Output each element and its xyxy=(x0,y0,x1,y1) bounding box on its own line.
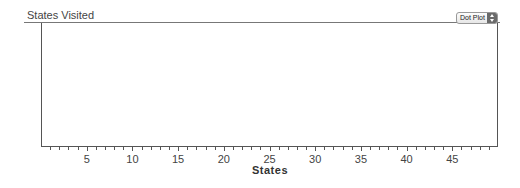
chart-title: States Visited xyxy=(27,9,94,21)
minor-tick xyxy=(251,147,252,150)
minor-tick xyxy=(123,147,124,150)
minor-tick xyxy=(196,147,197,150)
minor-tick xyxy=(96,147,97,150)
minor-tick xyxy=(480,147,481,150)
minor-tick xyxy=(50,147,51,150)
minor-tick xyxy=(187,147,188,150)
minor-tick xyxy=(416,147,417,150)
major-tick xyxy=(407,147,408,151)
minor-tick xyxy=(388,147,389,150)
minor-tick xyxy=(379,147,380,150)
minor-tick xyxy=(242,147,243,150)
minor-tick xyxy=(142,147,143,150)
minor-tick xyxy=(425,147,426,150)
minor-tick xyxy=(443,147,444,150)
minor-tick xyxy=(169,147,170,150)
major-tick xyxy=(178,147,179,151)
minor-tick xyxy=(352,147,353,150)
major-tick xyxy=(452,147,453,151)
minor-tick xyxy=(68,147,69,150)
plot-area xyxy=(41,23,498,147)
major-tick xyxy=(132,147,133,151)
minor-tick xyxy=(434,147,435,150)
minor-tick xyxy=(288,147,289,150)
minor-tick xyxy=(114,147,115,150)
x-axis-label: States xyxy=(0,164,520,176)
minor-tick xyxy=(233,147,234,150)
minor-tick xyxy=(105,147,106,150)
major-tick xyxy=(270,147,271,151)
minor-tick xyxy=(297,147,298,150)
select-arrows-icon xyxy=(487,13,497,23)
minor-tick xyxy=(324,147,325,150)
minor-tick xyxy=(279,147,280,150)
minor-tick xyxy=(78,147,79,150)
plot-type-select-label: Dot Plot xyxy=(460,14,485,21)
minor-tick xyxy=(333,147,334,150)
minor-tick xyxy=(370,147,371,150)
minor-tick xyxy=(306,147,307,150)
major-tick xyxy=(224,147,225,151)
minor-tick xyxy=(461,147,462,150)
minor-tick xyxy=(59,147,60,150)
minor-tick xyxy=(151,147,152,150)
major-tick xyxy=(361,147,362,151)
minor-tick xyxy=(260,147,261,150)
minor-tick xyxy=(397,147,398,150)
minor-tick xyxy=(215,147,216,150)
major-tick xyxy=(87,147,88,151)
minor-tick xyxy=(160,147,161,150)
minor-tick xyxy=(489,147,490,150)
major-tick xyxy=(315,147,316,151)
minor-tick xyxy=(343,147,344,150)
minor-tick xyxy=(206,147,207,150)
minor-tick xyxy=(471,147,472,150)
